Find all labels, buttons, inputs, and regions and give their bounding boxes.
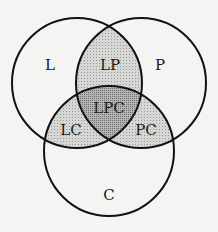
venn-diagram: L LP P LPC LC PC C	[0, 0, 218, 232]
label-lpc: LPC	[93, 99, 125, 117]
label-l: L	[45, 56, 55, 74]
label-p: P	[155, 56, 165, 74]
label-pc: PC	[135, 121, 157, 139]
label-lp: LP	[100, 56, 120, 74]
label-lc: LC	[60, 121, 81, 139]
label-c: C	[103, 186, 114, 204]
